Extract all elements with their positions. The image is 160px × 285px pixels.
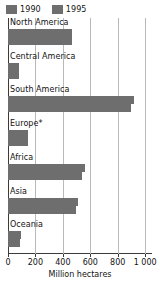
bar-1995 xyxy=(8,239,20,247)
bar-1990 xyxy=(8,96,134,104)
bar-group: Europe* xyxy=(8,119,152,153)
bar-group: North America xyxy=(8,18,152,52)
x-ticklabel: 0 xyxy=(5,258,10,268)
x-tick xyxy=(8,254,9,257)
bar-group: Africa xyxy=(8,153,152,187)
x-tick xyxy=(35,254,36,257)
x-axis-title: Million hectares xyxy=(0,270,160,280)
chart-legend: 1990 1995 xyxy=(6,3,94,16)
legend-label-1990: 1990 xyxy=(20,5,41,14)
legend-item-1990: 1990 xyxy=(6,5,41,14)
bar-chart: 1990 1995 North AmericaCentral AmericaSo… xyxy=(0,0,160,285)
x-axis-ticklabels: 02004006008001 000 xyxy=(0,258,160,269)
bar-1995 xyxy=(8,206,76,214)
x-ticklabel: 800 xyxy=(110,258,125,268)
bar-group: Asia xyxy=(8,187,152,221)
x-ticklabel: 200 xyxy=(28,258,43,268)
bar-1995 xyxy=(8,104,131,112)
bar-group: Central America xyxy=(8,52,152,86)
bar-1995 xyxy=(8,172,82,180)
x-tick xyxy=(63,254,64,257)
bar-group: Oceania xyxy=(8,220,152,254)
bar-1995 xyxy=(8,138,28,146)
bar-1990 xyxy=(8,63,19,71)
bar-1990 xyxy=(8,198,78,206)
bar-group-label: South America xyxy=(10,85,69,95)
bar-1990 xyxy=(8,231,21,239)
bar-group-label: Oceania xyxy=(10,220,43,230)
x-ticklabel: 600 xyxy=(83,258,98,268)
bar-group-label: North America xyxy=(10,18,69,28)
x-ticklabel: 1 000 xyxy=(134,258,157,268)
bar-group-label: Asia xyxy=(10,187,27,197)
legend-label-1995: 1995 xyxy=(66,5,87,14)
bar-1990 xyxy=(8,164,85,172)
legend-item-1995: 1995 xyxy=(52,5,87,14)
bar-group-label: Africa xyxy=(10,153,33,163)
bar-1990 xyxy=(8,130,28,138)
legend-swatch-1990 xyxy=(6,5,17,14)
bar-1995 xyxy=(8,37,72,45)
x-tick xyxy=(145,254,146,257)
plot-area: North AmericaCentral AmericaSouth Americ… xyxy=(8,18,152,254)
bar-1995 xyxy=(8,71,19,79)
legend-swatch-1995 xyxy=(52,5,63,14)
x-tick xyxy=(118,254,119,257)
bar-group-label: Europe* xyxy=(10,119,42,129)
bar-1990 xyxy=(8,29,72,37)
x-ticklabel: 400 xyxy=(55,258,70,268)
bar-group: South America xyxy=(8,85,152,119)
x-tick xyxy=(90,254,91,257)
bar-group-label: Central America xyxy=(10,52,75,62)
